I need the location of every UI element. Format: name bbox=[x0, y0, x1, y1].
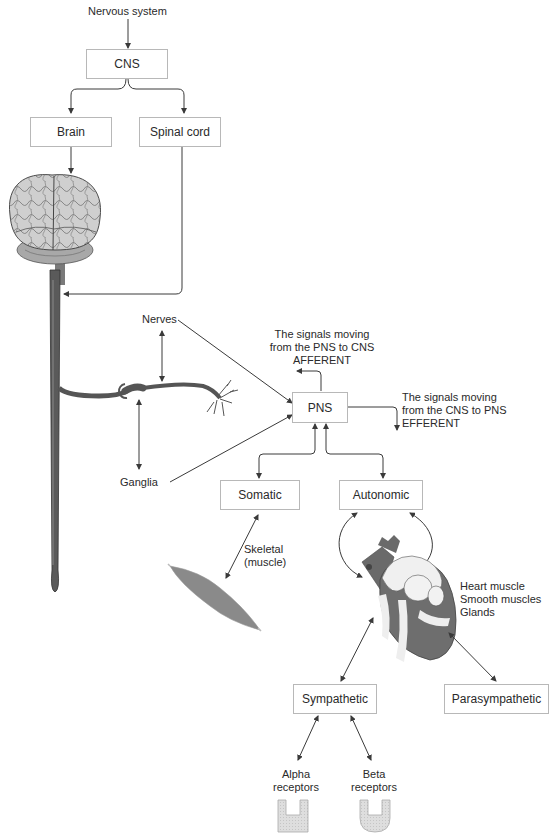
brain-illustration bbox=[9, 175, 100, 285]
somatic-box[interactable]: Somatic bbox=[220, 480, 300, 510]
alpha-receptors-label: Alpha receptors bbox=[268, 768, 324, 794]
arrow-sympathetic-beta bbox=[351, 716, 371, 760]
neuron-illustration bbox=[59, 380, 238, 416]
arrow-sympathetic-alpha bbox=[298, 716, 318, 760]
beta-receptors-label: Beta receptors bbox=[346, 768, 402, 794]
nerves-label: Nerves bbox=[142, 313, 177, 326]
arrow-heart-parasympathetic bbox=[449, 633, 496, 681]
brain-box[interactable]: Brain bbox=[30, 117, 112, 147]
skeletal-muscle-label: Skeletal (muscle) bbox=[244, 543, 286, 569]
arrow-cns-to-spinal-cord bbox=[128, 79, 184, 113]
arrow-cns-to-brain bbox=[71, 79, 126, 113]
afferent-label: The signals moving from the PNS to CNS A… bbox=[267, 328, 377, 367]
spinal-cord-illustration bbox=[50, 270, 60, 592]
autonomic-box[interactable]: Autonomic bbox=[339, 480, 423, 510]
arrow-autonomic-heart-left bbox=[339, 513, 362, 577]
cns-box[interactable]: CNS bbox=[86, 49, 168, 79]
arrow-pns-somatic bbox=[259, 424, 315, 478]
heart-illustration bbox=[362, 535, 456, 662]
skeletal-muscle-illustration bbox=[168, 564, 261, 631]
alpha-receptor-shape bbox=[278, 800, 308, 832]
autonomic-targets-label: Heart muscle Smooth muscles Glands bbox=[460, 580, 541, 619]
nervous-system-diagram: Nervous system CNS Brain Spinal cord PNS… bbox=[0, 0, 552, 835]
parasympathetic-box[interactable]: Parasympathetic bbox=[444, 684, 549, 714]
arrow-pns-autonomic bbox=[326, 424, 383, 478]
efferent-label: The signals moving from the CNS to PNS E… bbox=[402, 391, 507, 430]
sympathetic-box[interactable]: Sympathetic bbox=[293, 684, 377, 714]
beta-receptor-shape bbox=[360, 800, 390, 832]
spinal-cord-box[interactable]: Spinal cord bbox=[139, 117, 221, 147]
title-label: Nervous system bbox=[88, 5, 167, 18]
arrow-heart-sympathetic bbox=[341, 618, 373, 681]
arrow-efferent bbox=[347, 407, 397, 430]
pns-box[interactable]: PNS bbox=[292, 392, 348, 423]
arrow-afferent bbox=[297, 371, 321, 391]
ganglia-label: Ganglia bbox=[120, 476, 158, 489]
arrow-ganglia-to-pns bbox=[170, 415, 292, 482]
